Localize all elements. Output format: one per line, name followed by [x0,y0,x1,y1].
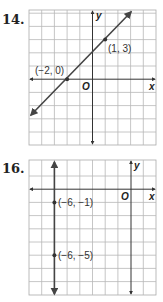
graph-14: (−2, 0) (1, 3) O x y [29,10,156,145]
origin-label-16: O [121,191,129,202]
graph-16: (−6, −1) (−6, −5) O x y [29,160,156,295]
point-label-neg6-neg1: (−6, −1) [58,197,93,208]
grid-16 [29,160,156,295]
point-label-1-3: (1, 3) [108,43,131,54]
point-neg6-neg1 [52,200,56,204]
point-label-neg6-neg5: (−6, −5) [58,250,93,261]
origin-label-14: O [82,81,90,92]
point-label-neg2-0: (−2, 0) [35,65,64,76]
y-axis-label-14: y [95,10,102,21]
graphs-canvas: (−2, 0) (1, 3) O x y (−6, −1) (−6, −5) O… [0,0,163,302]
x-axis-label-16: x [148,191,155,202]
point-neg2-0 [65,77,69,81]
x-axis-label-14: x [148,81,155,92]
y-axis-label-16: y [133,160,140,171]
point-1-3 [103,38,107,42]
point-neg6-neg5 [52,253,56,257]
